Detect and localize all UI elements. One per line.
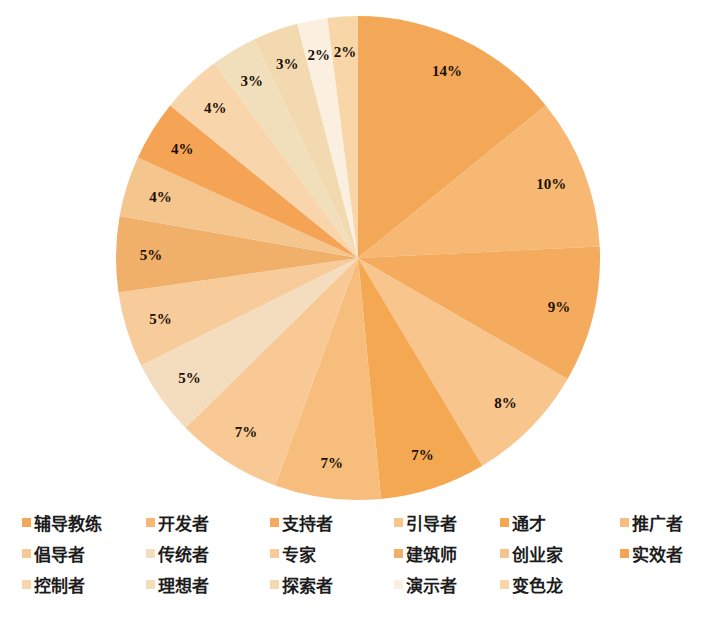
legend-item[interactable]: 建筑师 [394,541,457,566]
legend-item[interactable]: 探索者 [270,572,333,597]
legend-color-swatch [146,580,155,589]
legend-color-swatch [146,518,155,527]
legend-item[interactable]: 专家 [270,541,316,566]
legend-item-label: 演示者 [406,572,457,597]
pie-slice-label: 2% [308,47,331,63]
legend-color-swatch [22,580,31,589]
legend-color-swatch [270,518,279,527]
pie-slice-label: 5% [140,247,163,263]
pie-slice-label: 8% [494,395,517,411]
legend-item[interactable]: 实效者 [620,541,683,566]
pie-slices-group [116,16,600,500]
legend-item[interactable]: 支持者 [270,510,333,535]
legend-item[interactable]: 推广者 [620,510,683,535]
legend-item-label: 辅导教练 [34,510,102,535]
legend-color-swatch [394,518,403,527]
legend-item-label: 探索者 [282,572,333,597]
pie-slice-label: 3% [240,73,263,89]
pie-chart-area: 14%10%9%8%7%7%7%5%5%5%4%4%4%3%3%2%2% [0,0,712,510]
legend-color-swatch [22,518,31,527]
legend-item-label: 实效者 [632,541,683,566]
pie-slice-label: 2% [334,44,357,60]
legend-item[interactable]: 理想者 [146,572,209,597]
legend-color-swatch [146,549,155,558]
pie-chart-svg: 14%10%9%8%7%7%7%5%5%5%4%4%4%3%3%2%2% [0,0,712,510]
legend-color-swatch [270,580,279,589]
legend-item-label: 支持者 [282,510,333,535]
legend-item-label: 倡导者 [34,541,85,566]
legend-color-swatch [394,549,403,558]
legend-row: 辅导教练开发者支持者引导者通才推广者 [0,508,712,539]
legend-item[interactable]: 倡导者 [22,541,85,566]
pie-slice-label: 14% [432,63,462,79]
legend-item-label: 传统者 [158,541,209,566]
legend-item[interactable]: 创业家 [500,541,563,566]
pie-slice-label: 7% [321,455,344,471]
legend-color-swatch [500,549,509,558]
legend-item-label: 创业家 [512,541,563,566]
pie-slice-label: 3% [276,56,299,72]
pie-slice-label: 9% [548,299,571,315]
legend-row: 控制者理想者探索者演示者变色龙 [0,570,712,601]
legend-color-swatch [500,518,509,527]
legend-item[interactable]: 变色龙 [500,572,563,597]
legend-item-label: 建筑师 [406,541,457,566]
legend-item-label: 专家 [282,541,316,566]
pie-slice-label: 7% [411,447,434,463]
legend-item-label: 推广者 [632,510,683,535]
legend-color-swatch [620,549,629,558]
legend-color-swatch [394,580,403,589]
pie-slice-label: 4% [149,189,172,205]
pie-slice-label: 4% [204,100,227,116]
pie-slice-label: 4% [171,141,194,157]
legend-item[interactable]: 引导者 [394,510,457,535]
legend-item[interactable]: 开发者 [146,510,209,535]
legend-item-label: 理想者 [158,572,209,597]
legend-color-swatch [500,580,509,589]
legend-item-label: 通才 [512,510,546,535]
pie-slice-label: 5% [178,370,201,386]
legend-item[interactable]: 辅导教练 [22,510,102,535]
legend-row: 倡导者传统者专家建筑师创业家实效者 [0,539,712,570]
pie-slice-label: 5% [149,311,172,327]
pie-slice-label: 10% [536,176,566,192]
legend-color-swatch [620,518,629,527]
legend-item[interactable]: 控制者 [22,572,85,597]
legend-item-label: 引导者 [406,510,457,535]
legend-item-label: 变色龙 [512,572,563,597]
legend-item-label: 控制者 [34,572,85,597]
legend-item-label: 开发者 [158,510,209,535]
legend-color-swatch [22,549,31,558]
legend-item[interactable]: 通才 [500,510,546,535]
legend-item[interactable]: 演示者 [394,572,457,597]
chart-legend: 辅导教练开发者支持者引导者通才推广者倡导者传统者专家建筑师创业家实效者控制者理想… [0,508,712,618]
legend-color-swatch [270,549,279,558]
legend-item[interactable]: 传统者 [146,541,209,566]
pie-slice-label: 7% [235,424,258,440]
